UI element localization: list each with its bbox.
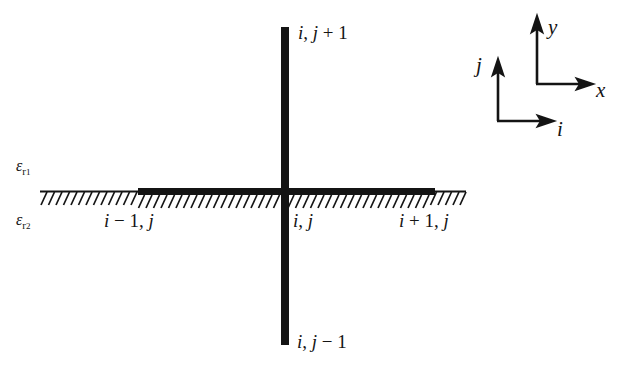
node-label-center-comma: , bbox=[298, 210, 308, 231]
axis-label-j: j bbox=[476, 55, 482, 76]
node-label-center: i, j bbox=[293, 211, 313, 230]
diagram-svg bbox=[0, 0, 626, 377]
node-label-left-op: − bbox=[109, 210, 129, 231]
vertical-grid-branch bbox=[281, 27, 289, 345]
permittivity-upper-subsub: 1 bbox=[26, 167, 31, 177]
node-label-bottom-comma: , bbox=[302, 331, 312, 352]
node-label-right-j: j bbox=[444, 210, 449, 231]
i-axis-arrowhead bbox=[539, 116, 554, 126]
node-label-center-j: j bbox=[308, 210, 313, 231]
node-label-bottom: i, j − 1 bbox=[297, 332, 347, 351]
node-label-bottom-num: 1 bbox=[337, 331, 347, 352]
node-label-left-j: j bbox=[149, 210, 154, 231]
y-axis-arrowhead bbox=[532, 17, 542, 32]
node-label-top-num: 1 bbox=[338, 22, 348, 43]
node-label-left: i − 1, j bbox=[104, 211, 154, 230]
node-label-right-num: 1 bbox=[425, 210, 435, 231]
axis-label-y: y bbox=[548, 17, 557, 38]
node-label-right-op: + bbox=[404, 210, 424, 231]
node-label-right: i + 1, j bbox=[399, 211, 449, 230]
node-label-right-comma: , bbox=[434, 210, 444, 231]
node-label-left-num: 1 bbox=[130, 210, 140, 231]
figure-canvas: i, j + 1 i − 1, j i, j i + 1, j i, j − 1… bbox=[0, 0, 626, 377]
axis-label-i: i bbox=[557, 119, 563, 140]
node-label-top: i, j + 1 bbox=[298, 23, 348, 42]
x-axis-arrowhead bbox=[578, 79, 593, 89]
permittivity-lower-subsub: 2 bbox=[26, 221, 31, 231]
node-label-left-comma: , bbox=[139, 210, 149, 231]
node-label-bottom-op: − bbox=[317, 331, 337, 352]
j-axis-arrowhead bbox=[493, 60, 503, 75]
permittivity-label-upper: εr1 bbox=[16, 158, 30, 177]
node-label-top-op: + bbox=[318, 22, 338, 43]
cartesian-axis-frame bbox=[532, 17, 592, 89]
index-axis-frame bbox=[493, 60, 553, 126]
axis-label-x: x bbox=[596, 80, 605, 101]
permittivity-label-lower: εr2 bbox=[16, 212, 30, 231]
node-label-top-comma: , bbox=[303, 22, 313, 43]
